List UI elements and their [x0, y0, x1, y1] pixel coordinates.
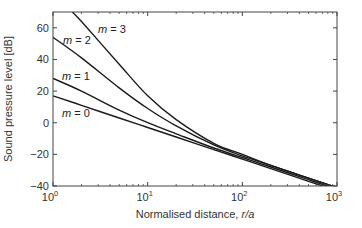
x-tick-label: 102	[231, 189, 247, 203]
y-tick-label: 0	[43, 117, 49, 129]
curve-m0	[53, 96, 337, 191]
curve-label-m0: m = 0	[62, 107, 90, 119]
curve-label-m2: m = 2	[63, 34, 91, 46]
y-tick-label: 20	[37, 85, 49, 97]
curve-m2	[53, 37, 337, 187]
curve-labels: m = 0m = 1m = 2m = 3	[62, 23, 126, 119]
sound-pressure-chart: 6040200−20−40100101102103 m = 0m = 1m = …	[0, 0, 362, 228]
curve-label-m1: m = 1	[62, 70, 90, 82]
x-tick-label: 103	[326, 189, 342, 203]
x-axis-label: Normalised distance, r/a	[136, 208, 255, 220]
x-tick-label: 101	[136, 189, 152, 203]
x-tick-label: 100	[42, 189, 58, 203]
y-tick-label: 40	[37, 53, 49, 65]
y-tick-label: −20	[30, 148, 49, 160]
curve-m1	[53, 78, 337, 189]
curves	[53, 12, 337, 191]
curve-m3	[72, 12, 337, 188]
curve-label-m3: m = 3	[98, 23, 126, 35]
y-tick-label: 60	[37, 22, 49, 34]
y-axis-label: Sound pressure level [dB]	[2, 36, 14, 162]
